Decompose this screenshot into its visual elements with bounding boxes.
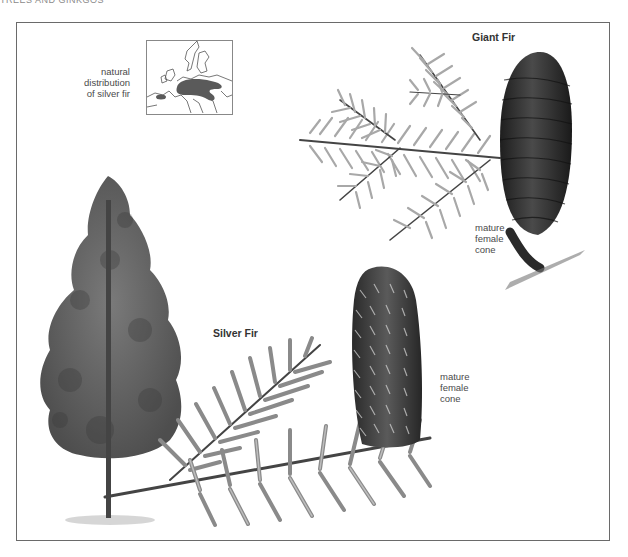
cone-label-line: cone — [475, 244, 505, 255]
fir-illustration — [0, 0, 628, 557]
giant-fir-cone-label: mature female cone — [475, 222, 505, 255]
cone-label-line: female — [475, 233, 505, 244]
silver-fir-cone — [352, 267, 422, 448]
silver-fir-tree — [40, 176, 181, 525]
giant-fir-cone — [500, 52, 585, 290]
giant-fir-title: Giant Fir — [472, 31, 515, 43]
cone-label-line: mature — [475, 222, 505, 233]
silver-fir-cone-label: mature female cone — [440, 371, 470, 404]
giant-fir-branch — [300, 48, 500, 240]
silver-fir-title: Silver Fir — [213, 327, 258, 339]
cone-label-line: cone — [440, 393, 470, 404]
cone-label-line: female — [440, 382, 470, 393]
cone-label-line: mature — [440, 371, 470, 382]
